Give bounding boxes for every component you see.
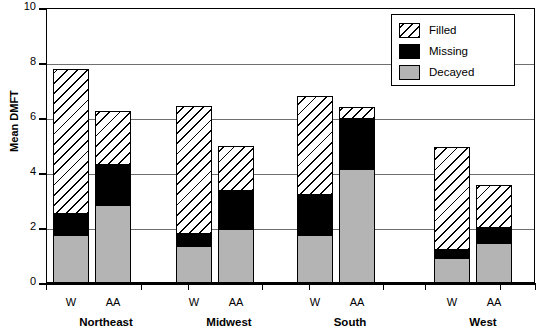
stacked-bar-chart: Mean DMFT 0246810 WAAWAAWAAWAA Northeast… xyxy=(0,0,541,336)
legend-label-decayed: Decayed xyxy=(429,67,474,79)
y-tick-mark xyxy=(39,63,46,65)
segment-missing xyxy=(339,119,375,169)
y-tick-label: 6 xyxy=(30,110,36,122)
x-tick-mark xyxy=(309,283,310,290)
segment-decayed xyxy=(339,169,375,283)
legend-item-missing: Missing xyxy=(399,41,514,62)
segment-filled xyxy=(53,69,89,215)
segment-missing xyxy=(53,214,89,235)
x-tick-mark xyxy=(500,283,501,290)
segment-filled xyxy=(297,96,333,195)
y-tick-mark xyxy=(39,118,46,120)
x-tick-mark xyxy=(425,283,426,290)
segment-filled xyxy=(434,147,470,250)
bar-northeast-w xyxy=(53,69,89,284)
y-tick-label: 0 xyxy=(30,275,36,287)
segment-decayed xyxy=(476,243,512,283)
segment-filled xyxy=(339,107,375,119)
segment-missing xyxy=(95,165,131,205)
legend-label-filled: Filled xyxy=(429,25,456,37)
x-tick-mark xyxy=(188,283,189,290)
x-tick-mark xyxy=(383,283,384,290)
segment-decayed xyxy=(434,258,470,283)
legend: Filled Missing Decayed xyxy=(391,14,515,86)
x-tick-mark xyxy=(141,283,142,290)
bar-west-w xyxy=(434,147,470,283)
bar-south-w xyxy=(297,96,333,283)
segment-decayed xyxy=(297,235,333,283)
segment-decayed xyxy=(176,246,212,283)
x-tick-mark xyxy=(535,283,536,290)
x-bar-label: AA xyxy=(208,296,264,308)
y-tick-mark xyxy=(39,173,46,175)
segment-filled xyxy=(218,146,254,191)
y-tick-mark xyxy=(39,8,46,10)
x-group-label-northeast: Northeast xyxy=(46,316,166,328)
segment-missing xyxy=(434,250,470,258)
x-bar-label: AA xyxy=(85,296,141,308)
missing-swatch-icon xyxy=(399,44,420,59)
legend-item-decayed: Decayed xyxy=(399,62,514,83)
y-tick-label: 10 xyxy=(24,0,36,12)
decayed-swatch-icon xyxy=(399,65,420,80)
segment-missing xyxy=(176,234,212,246)
segment-filled xyxy=(176,106,212,234)
y-tick-mark xyxy=(39,283,46,285)
segment-missing xyxy=(297,195,333,235)
filled-swatch-icon xyxy=(399,23,420,38)
y-tick-label: 8 xyxy=(30,55,36,67)
legend-item-filled: Filled xyxy=(399,20,514,41)
legend-label-missing: Missing xyxy=(429,46,468,58)
segment-decayed xyxy=(53,235,89,283)
y-tick-label: 2 xyxy=(30,220,36,232)
segment-decayed xyxy=(95,205,131,283)
y-tick-mark xyxy=(39,228,46,230)
x-tick-mark xyxy=(262,283,263,290)
segment-filled xyxy=(95,111,131,165)
segment-decayed xyxy=(218,229,254,283)
x-group-label-midwest: Midwest xyxy=(169,316,289,328)
bar-west-aa xyxy=(476,185,512,283)
x-axis-line xyxy=(46,283,535,285)
y-tick-label: 4 xyxy=(30,165,36,177)
x-group-label-south: South xyxy=(290,316,410,328)
segment-missing xyxy=(218,191,254,230)
y-axis-ticks: 0246810 xyxy=(0,0,46,283)
bar-midwest-aa xyxy=(218,146,254,284)
x-bar-label: AA xyxy=(329,296,385,308)
x-bar-label: AA xyxy=(466,296,522,308)
x-tick-mark xyxy=(46,283,47,290)
bar-midwest-w xyxy=(176,106,212,283)
bar-northeast-aa xyxy=(95,111,131,283)
segment-missing xyxy=(476,228,512,243)
bar-south-aa xyxy=(339,107,375,283)
segment-filled xyxy=(476,185,512,228)
x-group-label-west: West xyxy=(423,316,541,328)
